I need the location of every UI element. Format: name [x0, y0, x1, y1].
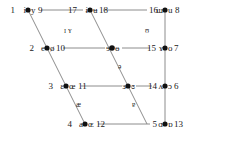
vowel-annotation-near-close-front: ɪ ʏ — [64, 27, 72, 35]
vowel-symbol-turned-v: ʌ — [159, 82, 164, 91]
vowel-symbol-y: y — [31, 6, 36, 15]
vowel-chart-lines — [0, 0, 225, 143]
vowel-number-9: 9 — [38, 6, 43, 15]
vowel-annotation-schwa: ə — [118, 63, 121, 71]
vowel-symbol-a: a — [79, 120, 83, 129]
vowel-symbol-u: u — [168, 6, 173, 15]
vowel-number-15: 15 — [147, 44, 156, 53]
vowel-symbol-small-capital-oe: ɶ — [88, 120, 94, 129]
vowel-number-14: 14 — [148, 82, 157, 91]
column-line-central-lower — [128, 86, 147, 124]
vowel-symbol-turned-script-a: ɒ — [168, 120, 173, 129]
vowel-number-1: 1 — [11, 6, 16, 15]
vowel-number-8: 8 — [175, 6, 180, 15]
vowel-number-2: 2 — [30, 44, 35, 53]
vowel-symbol-barred-u: ʉ — [93, 6, 98, 15]
dot-closemid-back — [162, 45, 167, 50]
vowel-symbol-o-slash: ø — [50, 44, 55, 53]
vowel-number-6: 6 — [174, 82, 179, 91]
vowel-number-10: 10 — [56, 44, 65, 53]
vowel-number-3: 3 — [49, 82, 54, 91]
vowel-symbol-epsilon: ɛ — [60, 82, 64, 91]
vowel-number-12: 12 — [96, 120, 105, 129]
dot-open-front — [82, 121, 87, 126]
vowel-annotation-turned-a: ɐ — [132, 101, 135, 109]
dot-closemid-central — [109, 45, 115, 51]
vowel-annotation-near-close-back: ʊ — [145, 27, 149, 35]
vowel-symbol-o: o — [168, 44, 173, 53]
vowel-symbol-barred-i: ɨ — [85, 6, 88, 15]
vowel-symbol-open-o: ɔ — [168, 82, 172, 91]
vowel-symbol-oe-ligature: œ — [69, 82, 76, 91]
vowel-symbol-reversed-epsilon: ɜ — [122, 82, 126, 91]
vowel-symbol-barred-o: ɵ — [115, 44, 120, 53]
vowel-symbol-script-a: ɑ — [158, 120, 163, 129]
vowel-symbol-turned-m: ɯ — [156, 6, 163, 15]
vowel-number-7: 7 — [174, 44, 179, 53]
vowel-symbol-closed-reversed-epsilon: ɞ — [131, 82, 135, 91]
ipa-vowel-chart: 1 i y 9 17 ɨ ʉ 18 16 ɯ u 8 2 e ø 10 ɘ ɵ … — [0, 0, 225, 143]
vowel-number-4: 4 — [68, 120, 73, 129]
vowel-number-17: 17 — [68, 6, 77, 15]
vowel-annotation-ae: æ — [76, 101, 81, 109]
dot-close-back — [162, 7, 167, 12]
vowel-number-5: 5 — [153, 120, 158, 129]
vowel-symbol-reversed-e: ɘ — [106, 44, 110, 53]
vowel-symbol-e: e — [41, 44, 45, 53]
vowel-symbol-rams-horn: ɤ — [159, 44, 163, 53]
vowel-number-13: 13 — [174, 120, 183, 129]
vowel-symbol-i: i — [23, 6, 26, 15]
dot-closemid-front — [44, 45, 49, 50]
vowel-number-18: 18 — [99, 6, 108, 15]
vowel-number-11: 11 — [78, 82, 87, 91]
